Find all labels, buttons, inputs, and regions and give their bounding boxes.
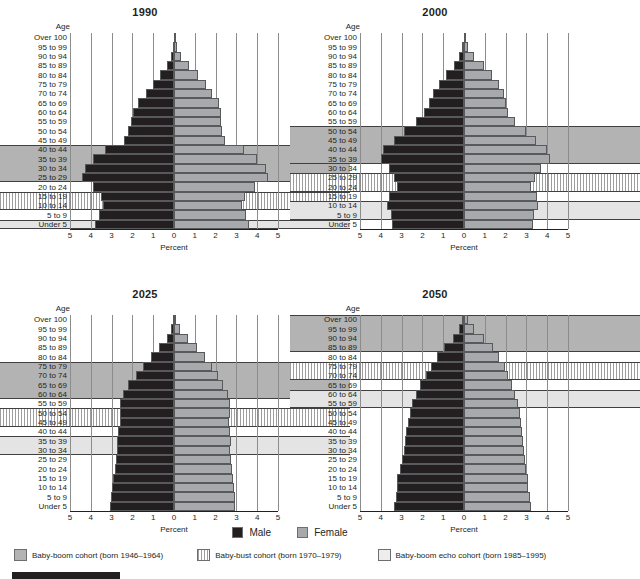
male-bar [159,343,174,352]
pyramid-row [70,324,278,333]
female-bar [464,371,508,380]
age-label: 55 to 59 [12,117,70,126]
male-bar [120,399,174,408]
pyramid-row [70,474,278,483]
pyramid-row [360,210,568,219]
female-bar [464,334,484,343]
plot-area-2025 [70,315,278,511]
male-bar [133,108,174,117]
pyramid-row [70,220,278,229]
female-bar [464,343,493,352]
pyramid-row [360,173,568,182]
plot-area-2000 [360,33,568,229]
female-bar [174,89,212,98]
male-bar [416,117,464,126]
female-bar [174,436,231,445]
female-bar [464,192,537,201]
age-label: 70 to 74 [302,89,360,98]
x-axis-label-1990: Percent [70,243,278,252]
female-bar [174,108,221,117]
female-bar [174,380,223,389]
female-bar [174,98,219,107]
x-tick-label: 3 [394,231,410,240]
female-bar [174,42,177,51]
age-label: 75 to 79 [12,80,70,89]
age-label: 65 to 69 [12,99,70,108]
male-bar [151,352,174,361]
male-bar [85,164,174,173]
male-bar [404,126,464,135]
x-tick-label: 5 [62,513,78,522]
female-bar [174,164,266,173]
pyramid-row [360,483,568,492]
female-bar [174,418,229,427]
pyramid-row [70,399,278,408]
age-label: Under 5 [12,220,70,229]
x-tick-label: 3 [104,513,120,522]
pyramid-row [360,42,568,51]
cohort-band-boom [568,126,640,163]
pyramid-row [360,117,568,126]
x-tick-label: 2 [498,231,514,240]
female-bar [174,70,198,79]
female-bar [464,182,531,191]
female-bar [464,492,530,501]
pyramid-row [70,371,278,380]
age-label: 50 to 54 [302,127,360,136]
pyramid-row [70,52,278,61]
panel-2000: 2000 Age Percent Over 10095 to 9990 to 9… [290,6,580,268]
footer-rule [12,572,120,579]
pyramid-row [360,136,568,145]
x-tick-label: 1 [477,513,493,522]
female-bar [464,324,474,333]
male-bar [394,136,464,145]
age-label: 15 to 19 [12,474,70,483]
x-axis-2025 [70,511,278,512]
age-label: 60 to 64 [302,390,360,399]
female-bar [464,408,520,417]
x-tick-label: 2 [208,231,224,240]
x-tick-label: 3 [518,231,534,240]
male-bar [118,427,174,436]
age-label: 85 to 89 [12,343,70,352]
pyramid-row [360,446,568,455]
female-bar [464,399,518,408]
age-label: 10 to 14 [12,201,70,210]
x-tick-label: 4 [249,231,265,240]
legend-sex: Male Female [0,524,580,540]
x-tick-label: 5 [560,231,576,240]
age-label: 80 to 84 [12,71,70,80]
age-label: 40 to 44 [302,145,360,154]
female-bar [174,371,218,380]
age-header-2050: Age [302,304,360,313]
female-bar [174,173,268,182]
female-bar [464,502,531,511]
pyramid-row [70,362,278,371]
male-bar [381,154,464,163]
x-tick-label: 3 [228,231,244,240]
female-bar [464,117,515,126]
age-label: 75 to 79 [12,362,70,371]
pyramid-row [70,380,278,389]
legend-item-female: Female [297,527,347,538]
female-bar [174,220,249,229]
x-tick-label: 1 [187,231,203,240]
bar-rows [70,315,278,511]
pyramid-row [360,89,568,98]
female-bar [464,362,505,371]
male-bar [82,173,174,182]
female-bar [464,201,538,210]
population-pyramid-figure: 1990 Age Percent Over 10095 to 9990 to 9… [0,0,580,520]
female-bar [174,192,245,201]
female-bar [464,126,526,135]
male-bar [391,210,464,219]
male-bar [437,352,464,361]
female-bar [174,201,242,210]
male-bar [424,108,464,117]
female-bar [464,173,535,182]
age-label: 20 to 24 [302,183,360,192]
age-label: Over 100 [12,315,70,324]
pyramid-row [70,315,278,324]
female-bar [174,210,246,219]
age-label: 95 to 99 [12,43,70,52]
